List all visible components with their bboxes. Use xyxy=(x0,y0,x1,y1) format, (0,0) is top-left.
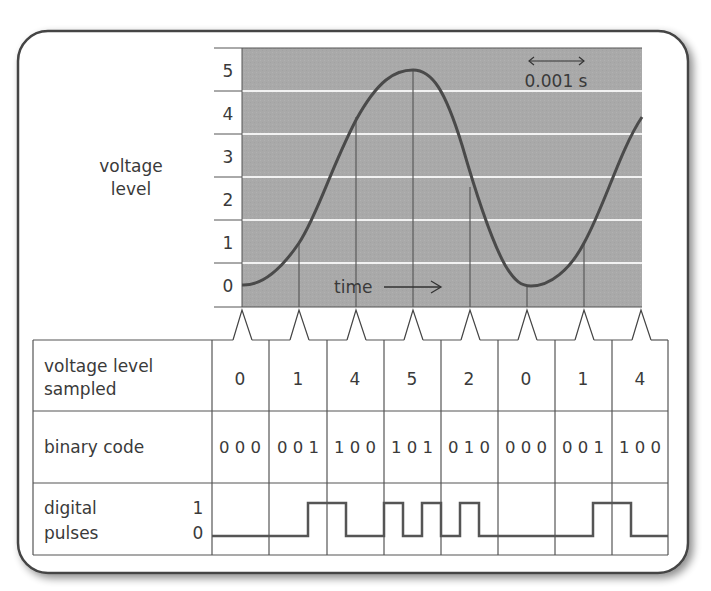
y-axis-label-line1: voltage xyxy=(99,156,163,176)
y-tick-2: 2 xyxy=(223,190,234,210)
binary-code: 1 0 0 xyxy=(334,438,376,457)
binary-code: 1 0 1 xyxy=(391,438,433,457)
sample-value: 4 xyxy=(635,369,646,389)
y-tick-0: 0 xyxy=(223,276,234,296)
y-tick-5: 5 xyxy=(223,61,234,81)
binary-code: 0 0 0 xyxy=(219,438,261,457)
sample-value: 2 xyxy=(464,369,475,389)
sample-value: 1 xyxy=(293,369,304,389)
binary-code: 0 0 0 xyxy=(505,438,547,457)
y-tick-3: 3 xyxy=(223,147,234,167)
binary-code: 0 0 1 xyxy=(562,438,604,457)
sample-value: 0 xyxy=(235,369,246,389)
diagram-canvas: voltage level 5 4 3 2 1 0 xyxy=(0,0,711,591)
binary-code: 0 1 0 xyxy=(448,438,490,457)
sample-value: 4 xyxy=(350,369,361,389)
row-label-sampled-2: sampled xyxy=(44,379,117,399)
sample-value: 5 xyxy=(407,369,418,389)
scale-label: 0.001 s xyxy=(525,71,588,91)
y-tick-1: 1 xyxy=(223,233,234,253)
y-axis-label-line2: level xyxy=(111,179,151,199)
pulse-high-label: 1 xyxy=(193,498,204,518)
y-tick-4: 4 xyxy=(223,104,234,124)
sample-value: 1 xyxy=(578,369,589,389)
time-label: time xyxy=(334,277,372,297)
pulse-low-label: 0 xyxy=(193,523,204,543)
sample-value: 0 xyxy=(521,369,532,389)
binary-code: 1 0 0 xyxy=(619,438,661,457)
row-label-pulses-1: digital xyxy=(44,498,97,518)
binary-code: 0 0 1 xyxy=(277,438,319,457)
row-label-binary: binary code xyxy=(44,437,144,457)
row-label-sampled-1: voltage level xyxy=(44,356,153,376)
row-label-pulses-2: pulses xyxy=(44,523,99,543)
